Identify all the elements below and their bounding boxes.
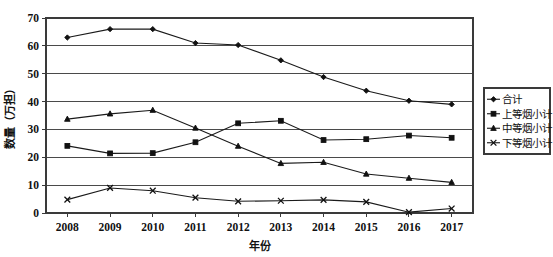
data-series-layer <box>64 27 454 216</box>
series-line <box>67 110 451 182</box>
legend-label: 下等烟小计 <box>502 137 553 149</box>
y-tick-label: 70 <box>28 12 40 24</box>
data-point-marker-square <box>321 138 326 143</box>
chart-canvas: 010203040506070 200820092010201120122013… <box>0 0 553 257</box>
series-line <box>67 121 451 154</box>
y-tick-label: 20 <box>28 151 40 163</box>
data-point-marker-square <box>65 143 70 148</box>
series-2 <box>65 107 455 184</box>
data-point-marker-square <box>193 140 198 145</box>
y-tick-label: 50 <box>28 68 40 80</box>
y-tick-label: 10 <box>28 179 40 191</box>
data-point-marker-square <box>278 118 283 123</box>
series-3 <box>64 185 454 215</box>
data-point-marker-diamond <box>321 74 326 79</box>
data-point-marker-diamond <box>406 98 411 103</box>
legend: 合计上等烟小计中等烟小计下等烟小计 <box>484 88 553 154</box>
data-point-marker-diamond <box>236 42 241 47</box>
x-tick-label: 2008 <box>56 221 79 233</box>
x-tick-label: 2012 <box>227 221 250 233</box>
x-tick-label: 2015 <box>355 221 378 233</box>
series-line <box>67 29 451 104</box>
y-tick-label: 60 <box>28 40 40 52</box>
legend-label: 合计 <box>502 93 523 105</box>
x-axis-ticks: 2008200920102011201220132014201520162017 <box>56 213 464 233</box>
x-tick-label: 2013 <box>269 221 292 233</box>
data-point-marker-diamond <box>150 27 155 32</box>
data-point-marker-square <box>449 135 454 140</box>
legend-label: 中等烟小计 <box>502 122 553 134</box>
x-tick-label: 2014 <box>312 221 335 233</box>
data-point-marker-square <box>491 111 496 116</box>
y-tick-label: 40 <box>28 96 40 108</box>
x-tick-label: 2011 <box>184 221 207 233</box>
x-tick-label: 2016 <box>397 221 420 233</box>
series-0 <box>65 27 455 107</box>
y-axis-title: 数量（万担） <box>3 83 17 149</box>
x-tick-label: 2010 <box>141 221 164 233</box>
x-tick-label: 2017 <box>440 221 463 233</box>
data-point-marker-diamond <box>107 27 112 32</box>
data-point-marker-diamond <box>364 88 369 93</box>
data-point-marker-diamond <box>278 58 283 63</box>
legend-label: 上等烟小计 <box>502 108 553 120</box>
series-1 <box>65 118 454 155</box>
data-point-marker-diamond <box>193 40 198 45</box>
data-point-marker-triangle <box>150 107 156 112</box>
data-point-marker-diamond <box>65 35 70 40</box>
data-point-marker-square <box>236 121 241 126</box>
y-tick-label: 0 <box>33 207 39 219</box>
data-point-marker-diamond <box>449 102 454 107</box>
x-axis-title: 年份 <box>249 239 272 253</box>
line-chart: 010203040506070 200820092010201120122013… <box>0 0 553 257</box>
data-point-marker-square <box>364 137 369 142</box>
data-point-marker-square <box>108 151 113 156</box>
series-line <box>67 188 451 212</box>
data-point-marker-square <box>150 151 155 156</box>
data-point-marker-square <box>407 133 412 138</box>
y-axis-ticks: 010203040506070 <box>28 12 47 219</box>
y-tick-label: 30 <box>28 123 40 135</box>
x-tick-label: 2009 <box>99 221 122 233</box>
